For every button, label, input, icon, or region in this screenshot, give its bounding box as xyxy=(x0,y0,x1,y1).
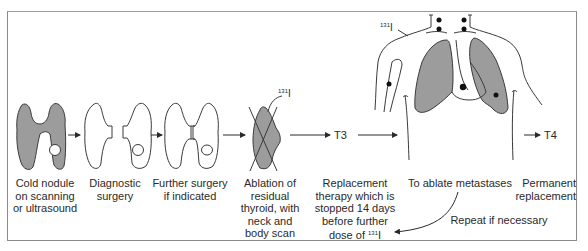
caption-diagnostic-surgery: Diagnostic surgery xyxy=(86,177,144,202)
isotope-label-torso: 131I xyxy=(380,19,393,34)
caption-ablate-metastases: To ablate metastases xyxy=(406,177,514,190)
torso-icon xyxy=(375,15,542,160)
caption-further-surgery: Further surgery if indicated xyxy=(150,177,230,202)
thyroid-whole-icon xyxy=(17,103,66,169)
thyroid-ablated-icon xyxy=(249,96,282,171)
caption-cold-nodule: Cold nodule on scanning or ultrasound xyxy=(10,177,80,215)
thyroid-split-icon xyxy=(85,103,152,168)
repeat-label: Repeat if necessary xyxy=(444,214,554,227)
caption-permanent-replacement: Permanent replacement xyxy=(510,177,576,202)
caption-replacement-therapy: Replacement therapy which is stopped 14 … xyxy=(310,177,400,242)
isotope-label-ablation: 131I xyxy=(278,85,291,100)
caption-ablation: Ablation of residual thyroid, with neck … xyxy=(238,177,302,240)
t4-label: T4 xyxy=(544,129,557,141)
thyroid-outline-icon xyxy=(165,103,219,168)
lungs-icon xyxy=(415,38,508,114)
t3-label: T3 xyxy=(334,129,347,141)
